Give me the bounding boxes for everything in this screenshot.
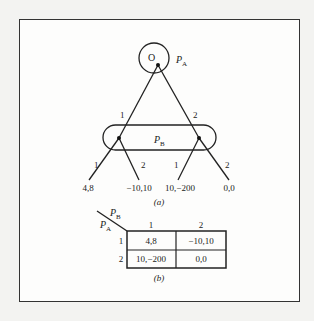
root-branch-1-label: 1: [120, 110, 125, 120]
left-branch-2-label: 2: [141, 160, 146, 170]
info-set-player-label: PB: [153, 134, 165, 148]
root-branch-1: [119, 65, 158, 138]
matrix-cell-1-2: −10,10: [188, 236, 214, 246]
root-player-label: PA: [175, 54, 187, 68]
left-node-branch-2: [119, 138, 139, 180]
root-node: [156, 63, 160, 67]
matrix-col-player: PB: [109, 207, 121, 221]
matrix-col-header-1: 1: [149, 220, 154, 230]
left-node-branch-1: [89, 138, 119, 180]
matrix-row-header-1: 1: [119, 236, 124, 246]
matrix-row-player: PA: [99, 219, 111, 233]
caption-a: (a): [154, 197, 165, 207]
root-branch-2-label: 2: [193, 110, 198, 120]
payoff-leaf-2: −10,10: [126, 183, 152, 193]
matrix-cell-2-2: 0,0: [195, 254, 207, 264]
game-figure: O PA PB 1 2 1 2 1 2 4,8 −10,10 10,−200 0…: [0, 0, 314, 321]
payoff-leaf-4: 0,0: [223, 183, 235, 193]
left-branch-1-label: 1: [94, 160, 99, 170]
right-branch-1-label: 1: [174, 160, 179, 170]
matrix-cell-2-1: 10,−200: [136, 254, 166, 264]
matrix-cell-1-1: 4,8: [145, 236, 157, 246]
matrix-row-header-2: 2: [119, 254, 124, 264]
right-branch-2-label: 2: [225, 160, 230, 170]
root-branch-2: [158, 65, 199, 138]
root-label: O: [148, 52, 155, 63]
payoff-leaf-3: 10,−200: [165, 183, 195, 193]
payoff-leaf-1: 4,8: [82, 183, 94, 193]
matrix-col-header-2: 2: [199, 220, 204, 230]
caption-b: (b): [154, 273, 165, 283]
pb-left-node: [117, 136, 121, 140]
right-node-branch-1: [178, 138, 199, 180]
pb-right-node: [197, 136, 201, 140]
